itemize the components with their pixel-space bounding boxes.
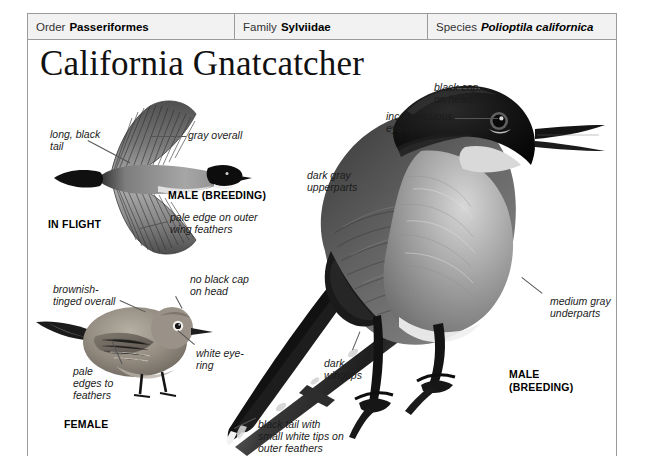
leader-male-eyering xyxy=(455,118,498,119)
label-inflight-tail: long, black tail xyxy=(50,128,100,152)
label-female-overall: brownish- tinged overall xyxy=(53,283,115,307)
label-male-upperparts: dark gray upperparts xyxy=(307,169,357,193)
taxonomy-key-family: Family xyxy=(243,21,277,33)
taxonomy-value-species: Polioptila californica xyxy=(481,21,593,33)
caption-male-breeding: MALE (BREEDING) xyxy=(509,368,573,394)
female-eye xyxy=(175,323,181,329)
taxonomy-value-order: Passeriformes xyxy=(69,21,148,33)
caption-in-flight: IN FLIGHT xyxy=(48,218,101,231)
label-male-eyering: inconspicuous eye-ring xyxy=(386,110,453,134)
label-female-edges: pale edges to feathers xyxy=(73,365,113,402)
taxonomy-header: Order Passeriformes Family Sylviidae Spe… xyxy=(27,13,617,40)
taxonomy-cell-species: Species Polioptila californica xyxy=(428,14,615,39)
label-male-underparts: medium gray underparts xyxy=(550,295,611,319)
tail xyxy=(54,170,103,188)
taxonomy-value-family: Sylviidae xyxy=(281,21,331,33)
field-guide-page: Order Passeriformes Family Sylviidae Spe… xyxy=(0,0,648,456)
label-male-tail: black tail with small white tips on oute… xyxy=(258,418,344,455)
label-male-wingtips: dark wingtips xyxy=(324,357,362,381)
male-eye xyxy=(493,115,506,128)
male-throat xyxy=(459,146,521,173)
taxonomy-key-species: Species xyxy=(436,21,477,33)
caption-female: FEMALE xyxy=(64,418,108,431)
male-beak xyxy=(535,125,605,151)
taxonomy-key-order: Order xyxy=(36,21,65,33)
taxonomy-cell-family: Family Sylviidae xyxy=(235,14,428,39)
leader-inflight-overall xyxy=(150,136,186,137)
taxonomy-cell-order: Order Passeriformes xyxy=(28,14,235,39)
label-male-cap: black cap on head xyxy=(434,81,478,105)
